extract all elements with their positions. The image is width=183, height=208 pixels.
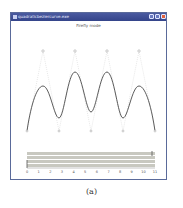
bezier-curve — [27, 72, 155, 131]
svg-text:9: 9 — [131, 170, 133, 174]
svg-text:6: 6 — [96, 170, 98, 174]
svg-text:8: 8 — [119, 170, 121, 174]
svg-text:5: 5 — [84, 170, 86, 174]
svg-text:3: 3 — [61, 170, 63, 174]
timeline-panel[interactable] — [27, 151, 155, 168]
timeline-ticks: 0 1 2 3 4 5 6 7 8 9 10 11 — [26, 170, 157, 174]
control-points[interactable] — [26, 50, 156, 132]
svg-text:1: 1 — [37, 170, 39, 174]
svg-text:11: 11 — [153, 170, 157, 174]
svg-text:4: 4 — [72, 170, 75, 174]
curve-canvas[interactable]: 0 1 2 3 4 5 6 7 8 9 10 11 — [0, 0, 183, 208]
svg-text:10: 10 — [141, 170, 145, 174]
svg-text:7: 7 — [107, 170, 109, 174]
svg-text:2: 2 — [49, 170, 51, 174]
svg-text:0: 0 — [26, 170, 28, 174]
figure-caption: (a) — [0, 187, 183, 196]
control-polygon — [27, 51, 155, 131]
